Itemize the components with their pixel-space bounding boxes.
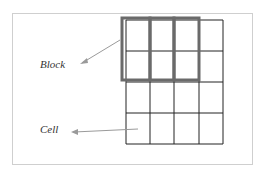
block-arrow	[82, 40, 120, 63]
block-label: Block	[40, 58, 65, 70]
block-outline	[150, 18, 174, 80]
cell-arrow	[74, 129, 138, 132]
block-outline	[174, 18, 199, 80]
cell-label: Cell	[40, 123, 58, 135]
block-arrow-head	[80, 58, 88, 64]
block-outlines	[122, 18, 199, 80]
grid-diagram	[0, 0, 267, 175]
cell-arrow-head	[71, 129, 78, 135]
arrows	[71, 40, 138, 135]
